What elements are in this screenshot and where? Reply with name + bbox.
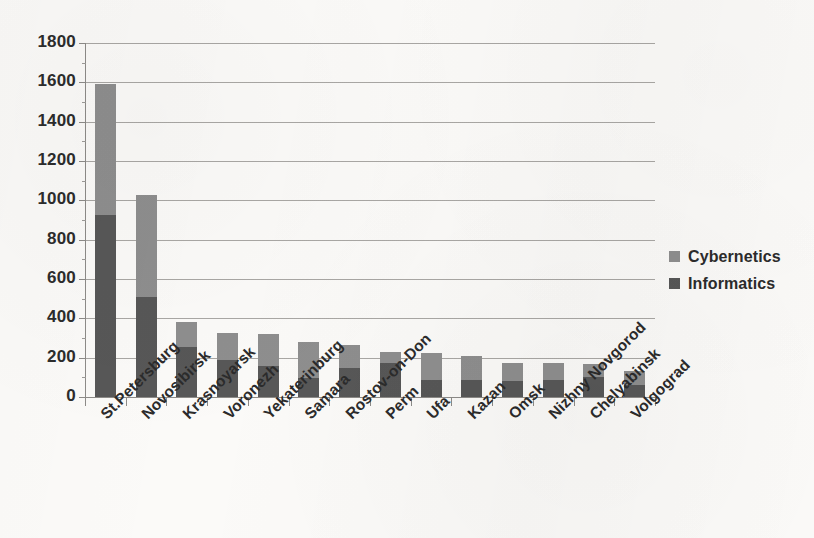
y-axis-minor-tick xyxy=(82,338,86,339)
bar-segment-informatics xyxy=(95,215,116,397)
bar-segment-cybernetics xyxy=(502,363,523,381)
y-axis-tick-label: 200 xyxy=(20,347,76,367)
bar-segment-cybernetics xyxy=(421,353,442,380)
y-axis-tick xyxy=(79,397,86,398)
y-axis-tick-label: 1400 xyxy=(20,111,76,131)
y-axis-tick-label: 600 xyxy=(20,268,76,288)
x-axis-tick xyxy=(85,398,86,406)
gridline xyxy=(85,43,655,44)
chart-page: 180016001400120010008006004002000 St.Pet… xyxy=(0,0,814,538)
legend-swatch-cybernetics xyxy=(669,251,680,262)
y-axis-minor-tick xyxy=(82,63,86,64)
y-axis-minor-tick xyxy=(82,141,86,142)
y-axis-tick-label: 400 xyxy=(20,307,76,327)
y-axis-tick-label: 1200 xyxy=(20,150,76,170)
bar-stack xyxy=(95,84,116,397)
bar-stack xyxy=(421,353,442,397)
y-axis-tick-label: 800 xyxy=(20,229,76,249)
legend-item-label: Informatics xyxy=(688,275,775,293)
y-axis-minor-tick xyxy=(82,220,86,221)
gridline xyxy=(85,161,655,162)
y-axis-tick xyxy=(79,43,86,44)
y-axis-minor-tick xyxy=(82,377,86,378)
legend-swatch-informatics xyxy=(669,278,680,289)
y-axis-tick xyxy=(79,82,86,83)
y-axis-tick-label: 1000 xyxy=(20,189,76,209)
gridline xyxy=(85,318,655,319)
bar-segment-cybernetics xyxy=(95,84,116,215)
legend-item: Informatics xyxy=(669,270,781,297)
gridline xyxy=(85,279,655,280)
y-axis-minor-tick xyxy=(82,102,86,103)
y-axis-tick xyxy=(79,358,86,359)
gridline xyxy=(85,82,655,83)
y-axis-tick xyxy=(79,318,86,319)
chart-legend: CyberneticsInformatics xyxy=(669,243,781,297)
y-axis-tick-labels: 180016001400120010008006004002000 xyxy=(14,0,76,538)
y-axis-minor-tick xyxy=(82,299,86,300)
y-axis-tick-label: 1800 xyxy=(20,32,76,52)
y-axis-tick xyxy=(79,279,86,280)
y-axis-tick xyxy=(79,240,86,241)
legend-item-label: Cybernetics xyxy=(688,248,781,266)
y-axis-tick-label: 0 xyxy=(20,386,76,406)
bar-segment-cybernetics xyxy=(543,363,564,380)
gridline xyxy=(85,240,655,241)
y-axis-tick xyxy=(79,161,86,162)
bar-stack xyxy=(461,356,482,397)
y-axis-tick-label: 1600 xyxy=(20,71,76,91)
bar-segment-cybernetics xyxy=(176,322,197,347)
y-axis-minor-tick xyxy=(82,181,86,182)
legend-item: Cybernetics xyxy=(669,243,781,270)
bar-segment-cybernetics xyxy=(136,195,157,297)
y-axis-minor-tick xyxy=(82,259,86,260)
y-axis-tick xyxy=(79,122,86,123)
gridline xyxy=(85,200,655,201)
bar-segment-cybernetics xyxy=(461,356,482,379)
y-axis-tick xyxy=(79,200,86,201)
gridline xyxy=(85,122,655,123)
